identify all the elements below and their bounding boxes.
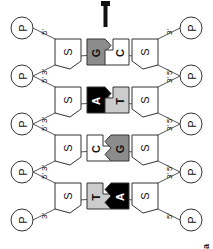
base-label: A xyxy=(90,97,102,105)
prime-label: 5' xyxy=(165,165,174,171)
prime-label: 5' xyxy=(40,29,49,35)
phosphate-label: P xyxy=(186,24,198,31)
sugar-label: S xyxy=(62,192,74,199)
base-label: T xyxy=(90,193,102,200)
prime-label: 3' xyxy=(40,213,49,219)
base-label: G xyxy=(90,49,102,58)
prime-label: 5' xyxy=(165,117,174,123)
sugar-label: S xyxy=(62,48,74,55)
sugar-label: S xyxy=(139,96,151,103)
sugar-label: S xyxy=(139,144,151,151)
prime-label: 3' xyxy=(165,125,174,131)
sugar-label: S xyxy=(62,144,74,151)
phosphate-label: P xyxy=(17,168,29,175)
base-label: C xyxy=(90,145,102,153)
prime-label: 5' xyxy=(40,77,49,83)
prime-label: 3' xyxy=(165,173,174,179)
prime-label: 5' xyxy=(165,69,174,75)
prime-label: 5' xyxy=(40,125,49,131)
phosphate-label: P xyxy=(17,120,29,127)
base-label: C xyxy=(114,49,126,57)
base-label: A xyxy=(114,193,126,201)
prime-label: 3' xyxy=(40,165,49,171)
sugar-label: S xyxy=(62,96,74,103)
phosphate-label: P xyxy=(186,168,198,175)
phosphate-label: P xyxy=(186,72,198,79)
phosphate-label: P xyxy=(17,24,29,31)
phosphate-label: P xyxy=(186,216,198,223)
phosphate-label: P xyxy=(186,120,198,127)
sugar-label: S xyxy=(139,192,151,199)
base-label: T xyxy=(114,97,126,104)
phosphate-label: P xyxy=(17,72,29,79)
base-label: G xyxy=(114,145,126,154)
prime-label: 3' xyxy=(165,77,174,83)
prime-label: 3' xyxy=(40,117,49,123)
prime-label: 3' xyxy=(165,29,174,35)
figure-panel-label: a xyxy=(201,244,211,249)
prime-label: 5' xyxy=(165,213,174,219)
sugar-label: S xyxy=(139,48,151,55)
phosphate-label: P xyxy=(17,216,29,223)
prime-label: 5' xyxy=(40,173,49,179)
prime-label: 3' xyxy=(40,69,49,75)
